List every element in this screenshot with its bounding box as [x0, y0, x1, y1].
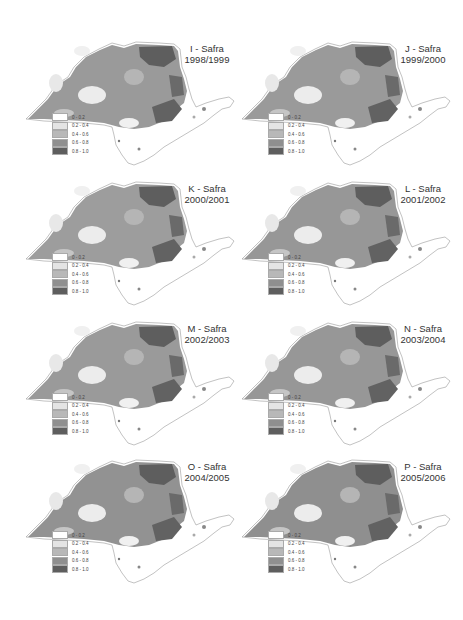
legend-item: 0.6 - 0.8 [52, 139, 89, 148]
legend-item: 0.6 - 0.8 [52, 557, 89, 566]
panel-title: M - Safra 2002/2003 [172, 323, 242, 345]
legend-item: 0 - 0.2 [52, 113, 89, 122]
panel-title-label: N - Safra [388, 323, 458, 334]
legend-swatch [268, 287, 284, 295]
legend-swatch [268, 427, 284, 435]
legend-item: 0.8 - 1.0 [268, 565, 305, 574]
panel-title-label: I - Safra [172, 43, 242, 54]
map-legend: 0 - 0.20.2 - 0.40.4 - 0.60.6 - 0.80.8 - … [52, 531, 89, 574]
legend-label: 0.2 - 0.4 [288, 403, 305, 408]
legend-label: 0.2 - 0.4 [72, 541, 89, 546]
legend-label: 0.8 - 1.0 [72, 149, 89, 154]
legend-label: 0.4 - 0.6 [72, 272, 89, 277]
legend-swatch [52, 147, 68, 155]
legend-swatch [52, 548, 68, 556]
legend-swatch [52, 122, 68, 130]
legend-swatch [268, 147, 284, 155]
legend-label: 0.4 - 0.6 [288, 412, 305, 417]
legend-swatch [268, 540, 284, 548]
legend-swatch [52, 402, 68, 410]
legend-swatch [268, 253, 284, 261]
legend-item: 0.2 - 0.4 [268, 540, 305, 549]
legend-label: 0.8 - 1.0 [288, 289, 305, 294]
legend-label: 0.8 - 1.0 [72, 567, 89, 572]
map-legend: 0 - 0.20.2 - 0.40.4 - 0.60.6 - 0.80.8 - … [52, 393, 89, 436]
legend-label: 0.8 - 1.0 [288, 149, 305, 154]
legend-item: 0.4 - 0.6 [268, 410, 305, 419]
legend-item: 0.2 - 0.4 [268, 402, 305, 411]
legend-item: 0 - 0.2 [268, 253, 305, 262]
panel-title-label: M - Safra [172, 323, 242, 334]
legend-swatch [52, 262, 68, 270]
legend-swatch [268, 122, 284, 130]
legend-label: 0 - 0.2 [72, 115, 85, 120]
map-legend: 0 - 0.20.2 - 0.40.4 - 0.60.6 - 0.80.8 - … [268, 531, 305, 574]
legend-swatch [268, 410, 284, 418]
legend-item: 0.4 - 0.6 [52, 130, 89, 139]
legend-label: 0.4 - 0.6 [72, 412, 89, 417]
map-legend: 0 - 0.20.2 - 0.40.4 - 0.60.6 - 0.80.8 - … [52, 253, 89, 296]
panel-title-label: O - Safra [172, 461, 242, 472]
legend-label: 0.8 - 1.0 [72, 289, 89, 294]
panel-title-label: L - Safra [388, 183, 458, 194]
legend-item: 0.4 - 0.6 [268, 270, 305, 279]
legend-item: 0.8 - 1.0 [52, 565, 89, 574]
legend-label: 0 - 0.2 [72, 533, 85, 538]
legend-swatch [52, 270, 68, 278]
legend-label: 0 - 0.2 [288, 255, 301, 260]
panel-title-label: K - Safra [172, 183, 242, 194]
legend-label: 0.4 - 0.6 [72, 550, 89, 555]
legend-item: 0.8 - 1.0 [52, 427, 89, 436]
legend-item: 0 - 0.2 [52, 253, 89, 262]
legend-swatch [52, 540, 68, 548]
legend-item: 0.6 - 0.8 [268, 557, 305, 566]
map-panel-m: M - Safra 2002/2003 0 - 0.20.2 - 0.40.4 … [24, 317, 239, 457]
legend-label: 0.4 - 0.6 [72, 132, 89, 137]
panel-title-label: P - Safra [388, 461, 458, 472]
legend-item: 0.2 - 0.4 [52, 540, 89, 549]
legend-swatch [268, 139, 284, 147]
legend-label: 0 - 0.2 [72, 395, 85, 400]
legend-swatch [52, 253, 68, 261]
legend-label: 0.2 - 0.4 [288, 123, 305, 128]
map-legend: 0 - 0.20.2 - 0.40.4 - 0.60.6 - 0.80.8 - … [268, 113, 305, 156]
legend-item: 0.8 - 1.0 [268, 427, 305, 436]
panel-title: K - Safra 2000/2001 [172, 183, 242, 205]
legend-label: 0.2 - 0.4 [72, 123, 89, 128]
legend-swatch [268, 113, 284, 121]
legend-swatch [52, 130, 68, 138]
legend-swatch [268, 130, 284, 138]
legend-item: 0 - 0.2 [268, 393, 305, 402]
legend-item: 0.2 - 0.4 [52, 262, 89, 271]
legend-label: 0.8 - 1.0 [72, 429, 89, 434]
map-panel-i: I - Safra 1998/1999 0 - 0.20.2 - 0.40.4 … [24, 37, 239, 177]
panel-season: 2002/2003 [172, 334, 242, 345]
panel-title: O - Safra 2004/2005 [172, 461, 242, 483]
legend-label: 0.8 - 1.0 [288, 567, 305, 572]
legend-item: 0.6 - 0.8 [52, 279, 89, 288]
map-panel-n: N - Safra 2003/2004 0 - 0.20.2 - 0.40.4 … [240, 317, 455, 457]
legend-item: 0.4 - 0.6 [268, 548, 305, 557]
panel-title: L - Safra 2001/2002 [388, 183, 458, 205]
legend-swatch [268, 419, 284, 427]
legend-swatch [268, 548, 284, 556]
panel-season: 2001/2002 [388, 194, 458, 205]
legend-swatch [52, 427, 68, 435]
legend-label: 0 - 0.2 [72, 255, 85, 260]
legend-item: 0.4 - 0.6 [52, 270, 89, 279]
legend-swatch [268, 279, 284, 287]
legend-item: 0.8 - 1.0 [52, 287, 89, 296]
map-panel-o: O - Safra 2004/2005 0 - 0.20.2 - 0.40.4 … [24, 455, 239, 595]
legend-item: 0.4 - 0.6 [52, 410, 89, 419]
legend-item: 0 - 0.2 [52, 393, 89, 402]
legend-item: 0 - 0.2 [268, 531, 305, 540]
legend-label: 0.2 - 0.4 [72, 403, 89, 408]
panel-title-label: J - Safra [388, 43, 458, 54]
legend-label: 0.4 - 0.6 [288, 272, 305, 277]
legend-swatch [268, 262, 284, 270]
legend-label: 0 - 0.2 [288, 395, 301, 400]
legend-swatch [52, 287, 68, 295]
legend-label: 0.2 - 0.4 [72, 263, 89, 268]
legend-item: 0.4 - 0.6 [268, 130, 305, 139]
legend-label: 0 - 0.2 [288, 533, 301, 538]
